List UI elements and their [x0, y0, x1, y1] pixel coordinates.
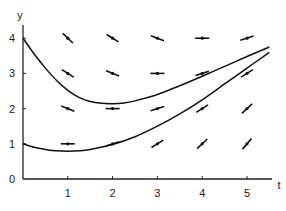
axis-labels: y t [17, 9, 280, 191]
x-tick-label: 5 [244, 187, 250, 199]
slope-dot [201, 37, 204, 40]
slope-dot [156, 142, 159, 145]
slope-dot [156, 37, 159, 40]
slope-field [61, 33, 254, 149]
slope-field-chart: 1234501234 y t [0, 0, 286, 211]
x-axis-label: t [277, 179, 280, 191]
slope-dot [245, 72, 248, 75]
slope-dot [156, 107, 159, 110]
slope-dot [66, 142, 69, 145]
solution-curve [23, 38, 269, 103]
slope-dot [111, 37, 114, 40]
y-tick-label: 1 [9, 138, 15, 150]
slope-dot [156, 72, 159, 75]
y-tick-label: 3 [9, 67, 15, 79]
solution-curves [23, 38, 269, 151]
slope-dot [245, 37, 248, 40]
slope-dot [66, 107, 69, 110]
x-tick-label: 3 [154, 187, 160, 199]
slope-dot [66, 37, 69, 40]
x-tick-label: 2 [110, 187, 116, 199]
slope-dot [245, 107, 248, 110]
axes: 1234501234 [9, 25, 272, 199]
x-tick-label: 1 [65, 187, 71, 199]
y-axis-label: y [17, 9, 23, 21]
y-tick-label: 4 [9, 32, 15, 44]
slope-dot [201, 72, 204, 75]
slope-dot [66, 72, 69, 75]
y-tick-label: 0 [9, 173, 15, 185]
slope-dot [201, 107, 204, 110]
slope-dot [111, 107, 114, 110]
slope-dot [201, 142, 204, 145]
slope-dot [245, 142, 248, 145]
solution-curve [23, 52, 269, 151]
x-tick-label: 4 [199, 187, 205, 199]
slope-dot [111, 72, 114, 75]
y-tick-label: 2 [9, 103, 15, 115]
